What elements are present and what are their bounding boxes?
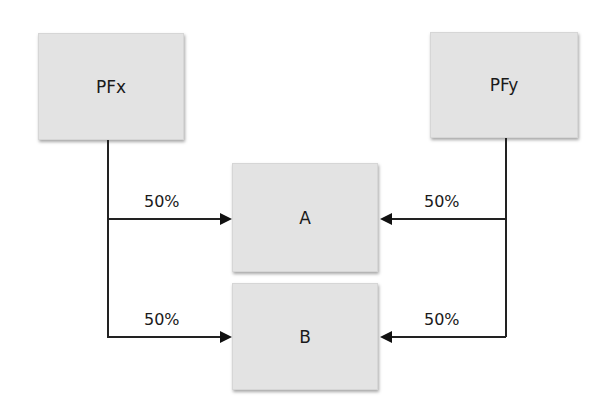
pfy-to-a-arrowhead-icon	[380, 213, 392, 225]
node-b-label: B	[299, 327, 311, 347]
pfx-to-b-arrowhead-icon	[220, 331, 232, 343]
node-pfy: PFy	[430, 32, 578, 138]
node-a-label: A	[299, 208, 311, 228]
node-pfy-label: PFy	[490, 75, 519, 95]
pfx-trunk-line	[107, 140, 109, 337]
pfy-to-b-line	[392, 336, 506, 338]
node-a: A	[232, 163, 378, 272]
node-pfx: PFx	[38, 33, 184, 140]
pfx-to-a-arrowhead-icon	[220, 213, 232, 225]
pfx-to-b-line	[107, 336, 220, 338]
node-b: B	[232, 283, 378, 390]
edge-label-pfy-b: 50%	[424, 310, 460, 329]
pfy-to-a-line	[392, 218, 506, 220]
node-pfx-label: PFx	[96, 77, 126, 97]
edge-label-pfx-b: 50%	[144, 310, 180, 329]
pfy-trunk-line	[505, 138, 507, 337]
pfx-to-a-line	[107, 218, 220, 220]
edge-label-pfy-a: 50%	[424, 192, 460, 211]
edge-label-pfx-a: 50%	[144, 192, 180, 211]
pfy-to-b-arrowhead-icon	[380, 331, 392, 343]
